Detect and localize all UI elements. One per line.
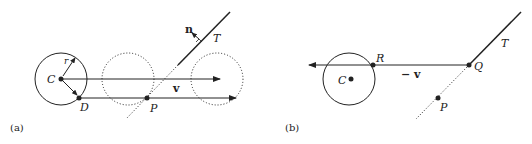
label-C: C xyxy=(338,74,347,87)
label-v: v xyxy=(172,82,180,95)
radius-arrow-down xyxy=(63,81,77,95)
label-R: R xyxy=(375,52,384,65)
diagram-canvas: C r D P T n v (a) C R Q P T − v (b) xyxy=(0,0,532,144)
hit-dot-R xyxy=(371,63,376,68)
label-D: D xyxy=(79,101,89,114)
plane-T xyxy=(469,12,521,65)
caption-a: (a) xyxy=(10,122,24,133)
label-T: T xyxy=(213,32,222,45)
point-dot xyxy=(436,96,441,101)
label-P: P xyxy=(149,102,158,115)
label-T: T xyxy=(501,37,510,50)
center-dot xyxy=(349,77,354,82)
center-dot xyxy=(59,77,64,82)
plane-T xyxy=(178,12,230,65)
label-P: P xyxy=(439,101,448,114)
point-dot xyxy=(145,96,150,101)
panel-b: C R Q P T − v (b) xyxy=(285,12,521,133)
label-neg-v: − v xyxy=(401,68,421,81)
normal-arrow xyxy=(192,33,199,39)
label-Q: Q xyxy=(474,60,483,73)
contact-dot xyxy=(77,96,82,101)
diagram-svg: C r D P T n v (a) C R Q P T − v (b) xyxy=(0,0,532,144)
label-C: C xyxy=(47,73,56,86)
label-r: r xyxy=(64,56,69,66)
label-n: n xyxy=(185,23,193,36)
caption-b: (b) xyxy=(285,122,299,133)
hit-dot-Q xyxy=(467,63,472,68)
panel-a: C r D P T n v (a) xyxy=(10,12,243,133)
